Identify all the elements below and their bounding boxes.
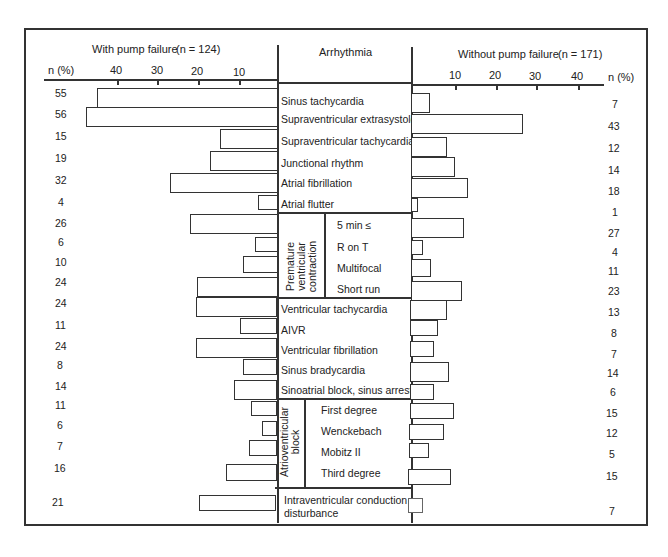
category-label: Third degree: [321, 467, 381, 479]
left-bar: [234, 380, 277, 400]
left-tick-10: 10: [233, 66, 245, 78]
right-bar: [411, 218, 464, 238]
category-label-line2: disturbance: [284, 507, 338, 519]
right-count: 15: [606, 470, 618, 482]
right-bar: [408, 498, 423, 513]
right-bar: [410, 403, 454, 419]
tick: [157, 80, 159, 85]
right-bar: [410, 320, 438, 336]
category-label: Mobitz II: [321, 446, 361, 458]
left-bar: [262, 421, 277, 436]
right-bar: [411, 157, 455, 177]
right-bar: [411, 137, 447, 157]
tick: [578, 85, 580, 90]
right-axis-line: [412, 84, 604, 86]
category-label: 5 min ≤: [337, 219, 371, 231]
category-label: Ventricular fibrillation: [281, 344, 378, 356]
right-bar: [410, 300, 447, 320]
right-bar: [411, 114, 523, 134]
category-label: Atrial fibrillation: [281, 177, 352, 189]
group-divider: [275, 487, 412, 489]
left-count: 21: [52, 496, 64, 508]
tick: [455, 85, 457, 90]
right-bar: [411, 93, 430, 113]
right-count: 6: [610, 386, 616, 398]
right-bar: [411, 259, 431, 277]
av-group-divider: [304, 398, 306, 487]
category-label: Multifocal: [337, 262, 381, 274]
category-label: Sinus tachycardia: [281, 95, 364, 107]
left-bar: [240, 318, 277, 334]
tick: [239, 80, 241, 85]
right-count: 13: [608, 306, 620, 318]
right-count: 1: [612, 206, 618, 218]
left-tick-20: 20: [191, 65, 203, 77]
group-divider: [277, 212, 412, 214]
left-bar: [243, 256, 278, 273]
right-bar: [410, 362, 449, 382]
right-count: 12: [606, 427, 618, 439]
left-tick-40: 40: [110, 64, 122, 76]
pvc-group-divider: [324, 212, 326, 298]
left-count: 11: [55, 399, 66, 411]
left-count: 11: [55, 319, 66, 331]
left-panel-n: (n = 124): [176, 43, 220, 55]
center-top-line: [277, 82, 412, 84]
left-bar: [170, 173, 278, 193]
left-bar: [199, 495, 276, 511]
left-bar: [249, 440, 277, 456]
left-count: 24: [55, 297, 67, 309]
right-ylabel: n (%): [608, 71, 634, 83]
right-count: 15: [606, 407, 618, 419]
left-bar: [220, 129, 278, 149]
left-axis-line: [44, 79, 277, 81]
center-header: Arrhythmia: [319, 46, 372, 58]
right-count: 43: [608, 120, 620, 132]
tick: [496, 85, 498, 90]
left-bar: [190, 214, 278, 234]
right-tick-20: 20: [489, 69, 501, 81]
right-count: 7: [612, 98, 618, 110]
left-count: 19: [55, 152, 67, 164]
left-bar: [226, 464, 277, 481]
right-bar: [409, 443, 429, 458]
right-count: 8: [611, 327, 617, 339]
left-count: 15: [55, 130, 67, 142]
left-count: 32: [55, 174, 67, 186]
av-group-label: Atrioventricular block: [279, 398, 301, 486]
right-tick-40: 40: [571, 70, 583, 82]
left-count: 56: [55, 108, 67, 120]
left-count: 6: [58, 236, 64, 248]
right-count: 7: [611, 348, 617, 360]
left-count: 7: [57, 440, 63, 452]
right-bar: [411, 240, 423, 255]
category-label: R on T: [337, 241, 368, 253]
right-tick-10: 10: [449, 69, 461, 81]
left-bar: [251, 401, 277, 416]
right-count: 5: [609, 448, 615, 460]
left-bar: [210, 151, 278, 171]
right-count: 27: [608, 227, 620, 239]
right-count: 11: [608, 265, 619, 277]
right-bar: [411, 198, 418, 212]
left-bar: [196, 297, 277, 317]
right-bar: [410, 341, 434, 357]
category-label: Sinoatrial block, sinus arrest: [281, 384, 412, 396]
right-count: 18: [608, 185, 620, 197]
category-label: Intraventricular conduction: [284, 494, 407, 506]
left-ylabel: n (%): [48, 64, 74, 76]
left-bar: [243, 359, 277, 375]
right-count: 14: [608, 164, 620, 176]
category-label: Junctional rhythm: [281, 157, 363, 169]
right-panel-n: (n = 171): [558, 48, 602, 60]
right-tick-30: 30: [529, 70, 541, 82]
left-count: 16: [54, 462, 66, 474]
category-label: Wenckebach: [321, 425, 382, 437]
left-count: 55: [55, 87, 67, 99]
left-bar: [258, 195, 278, 210]
right-panel-title: Without pump failure: [458, 48, 559, 60]
right-count: 23: [608, 285, 620, 297]
pvc-label-line3: contraction: [307, 224, 318, 310]
left-bar: [196, 338, 277, 358]
av-label-line2: block: [290, 398, 301, 486]
